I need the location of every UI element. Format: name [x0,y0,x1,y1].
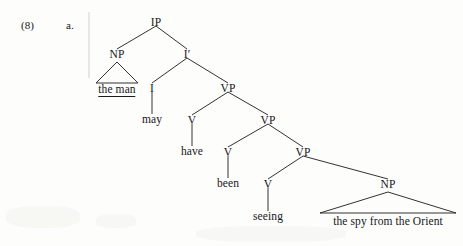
tree-edge-VP2-VP3 [268,124,303,147]
tree-node-ibar: I′ [184,49,191,61]
tree-node-i: I [150,83,154,95]
tree-triangle-NP1 [96,62,138,83]
tree-edge-Ibar-I [152,58,187,83]
tree-node-v2: V [224,147,232,159]
tree-node-np1: NP [110,49,125,61]
syntax-tree-lines [0,0,463,246]
tree-node-vp3: VP [296,147,311,159]
tree-edge-VP1-V1 [192,92,228,115]
tree-node-vp2: VP [261,115,276,127]
tree-terminal-theman: the man [98,84,135,97]
tree-edge-IP-Ibar [156,26,187,49]
figure-canvas: (8) a. IPNPI′the manImayVPVhaveVPVbeenVP… [0,0,463,246]
tree-terminal-have: have [181,146,203,158]
tree-terminal-been: been [217,178,239,190]
tree-edge-VP3-NP2 [303,156,388,179]
tree-node-vp1: VP [221,83,236,95]
tree-triangle-NP2 [320,192,456,213]
tree-node-v3: V [264,179,272,191]
tree-terminal-may: may [142,114,162,126]
tree-edge-IP-NP1 [117,26,156,49]
tree-terminal-seeing: seeing [253,211,283,223]
tree-edge-VP2-V2 [228,124,268,147]
tree-edge-VP3-V3 [268,156,303,179]
tree-terminal-spy: the spy from the Orient [333,216,443,228]
tree-edge-VP1-VP2 [228,92,268,115]
tree-node-ip: IP [151,17,161,29]
tree-node-np2: NP [381,179,396,191]
tree-edge-Ibar-VP1 [187,58,228,83]
tree-node-v1: V [188,115,196,127]
